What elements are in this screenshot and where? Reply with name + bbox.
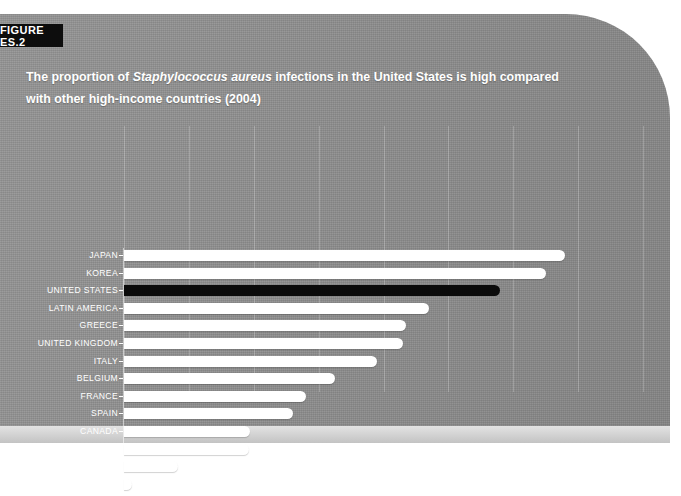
bar (124, 373, 335, 384)
bar (124, 250, 565, 261)
bar (124, 268, 546, 279)
bar (124, 408, 293, 419)
category-label: ITALY (0, 356, 118, 366)
bar-row: KOREA (0, 266, 670, 284)
figure-number-label: FIGURE ES.2 (0, 24, 63, 48)
category-label: SPAIN (0, 408, 118, 418)
bar-chart: JAPANKOREAUNITED STATESLATIN AMERICAGREE… (0, 122, 670, 412)
bar-row: JAPAN (0, 248, 670, 266)
category-label: LATIN AMERICA (0, 303, 118, 313)
bar-row: BELGIUM (0, 371, 670, 389)
bar-row: GREECE (0, 318, 670, 336)
bar (124, 356, 377, 367)
bar-row: UNITED STATES (0, 283, 670, 301)
y-axis-line (123, 248, 124, 496)
category-label: BELGIUM (0, 373, 118, 383)
category-label: FRANCE (0, 391, 118, 401)
category-label: GERMANY (0, 444, 118, 454)
figure-title: The proportion of Staphylococcus aureus … (26, 66, 586, 110)
category-label: UNITED KINGDOM (0, 338, 118, 348)
bar-row: GERMANY (0, 442, 670, 460)
category-label: GREECE (0, 320, 118, 330)
figure-title-species: Staphylococcus aureus (133, 70, 272, 84)
bar (124, 391, 306, 402)
bar-row: UNITED KINGDOM (0, 336, 670, 354)
bar-row: LATIN AMERICA (0, 301, 670, 319)
bar (124, 320, 406, 331)
category-label: KOREA (0, 268, 118, 278)
bar (124, 426, 250, 437)
bar-row: FRANCE (0, 389, 670, 407)
bar (124, 461, 178, 472)
category-label: JAPAN (0, 250, 118, 260)
bar-row: CZECH REPUBLIC (0, 459, 670, 477)
figure-number-tab: FIGURE ES.2 (0, 24, 63, 47)
category-label: UNITED STATES (0, 285, 118, 295)
figure-title-part1: The proportion of (26, 70, 133, 84)
bar (124, 338, 403, 349)
bar (124, 444, 249, 455)
category-label: CZECH REPUBLIC (0, 461, 118, 471)
category-label: THE NETHERLANDS (0, 479, 118, 489)
bar-row: CANADA (0, 424, 670, 442)
category-label: CANADA (0, 426, 118, 436)
bar (124, 479, 132, 490)
bar (124, 303, 429, 314)
bar-row: SPAIN (0, 406, 670, 424)
bar-rows: JAPANKOREAUNITED STATESLATIN AMERICAGREE… (0, 248, 670, 494)
bar-row: ITALY (0, 354, 670, 372)
bar (124, 285, 500, 296)
bar-row: THE NETHERLANDS (0, 477, 670, 495)
